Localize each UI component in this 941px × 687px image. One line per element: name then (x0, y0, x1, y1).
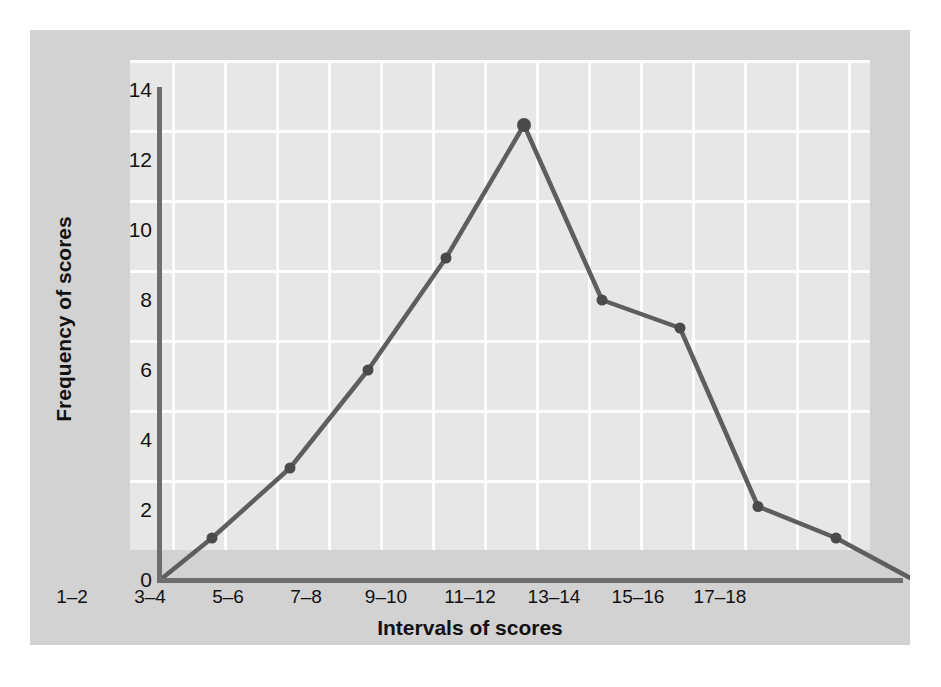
data-series-layer (30, 30, 910, 645)
data-point-marker (285, 463, 296, 474)
x-tick-8: 15–16 (593, 586, 683, 608)
y-axis-title: Frequency of scores (52, 129, 76, 509)
x-tick-9: 17–18 (675, 586, 765, 608)
data-point-marker (363, 365, 374, 376)
x-tick-7: 13–14 (509, 586, 599, 608)
x-tick-4: 7–8 (261, 586, 351, 608)
data-point-marker (517, 118, 531, 132)
y-tick-2: 2 (92, 498, 152, 522)
data-point-marker (831, 533, 842, 544)
y-tick-4: 4 (92, 428, 152, 452)
data-point-marker (207, 533, 218, 544)
data-point-marker (441, 253, 452, 264)
data-point-marker (753, 501, 764, 512)
data-point-marker (597, 295, 608, 306)
x-tick-5: 9–10 (341, 586, 431, 608)
x-tick-3: 5–6 (183, 586, 273, 608)
y-tick-8: 8 (92, 288, 152, 312)
x-tick-6: 11–12 (425, 586, 515, 608)
y-tick-10: 10 (92, 218, 152, 242)
data-point-marker (675, 323, 686, 334)
y-tick-14: 14 (92, 78, 152, 102)
y-tick-6: 6 (92, 358, 152, 382)
x-tick-2: 3–4 (105, 586, 195, 608)
chart-figure: 14 12 10 8 6 4 2 0 Frequency of scores 1… (30, 30, 910, 645)
series-line (160, 125, 910, 580)
y-tick-12: 12 (92, 148, 152, 172)
x-axis-line (157, 578, 903, 583)
x-axis-title: Intervals of scores (30, 616, 910, 640)
x-tick-1: 1–2 (27, 586, 117, 608)
y-axis-line (157, 87, 162, 583)
